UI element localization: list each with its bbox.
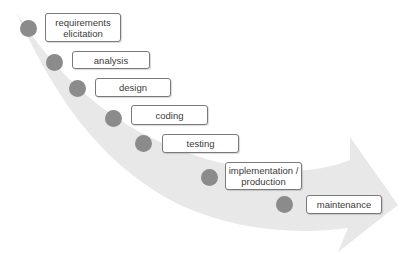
stage-marker-3 bbox=[69, 80, 86, 97]
stage-marker-1 bbox=[20, 20, 37, 37]
stage-maintenance: maintenance bbox=[306, 195, 382, 214]
stage-marker-5 bbox=[135, 135, 152, 152]
stage-requirements-elicitation: requirements elicitation bbox=[45, 13, 121, 42]
stage-marker-7 bbox=[276, 196, 293, 213]
stage-marker-6 bbox=[201, 169, 218, 186]
stage-analysis: analysis bbox=[72, 51, 150, 69]
stage-implementation-production: implementation / production bbox=[225, 162, 302, 190]
stage-testing: testing bbox=[162, 134, 239, 153]
stage-marker-2 bbox=[46, 54, 63, 71]
stage-coding: coding bbox=[131, 105, 208, 125]
stage-design: design bbox=[95, 78, 171, 97]
stage-marker-4 bbox=[105, 110, 122, 127]
